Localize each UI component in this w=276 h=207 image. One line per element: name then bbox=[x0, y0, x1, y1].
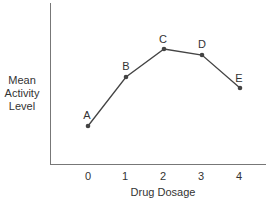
point-labels: A B C D E bbox=[83, 33, 242, 121]
point-c bbox=[162, 47, 167, 52]
x-tick-0: 0 bbox=[85, 170, 91, 182]
y-axis-label: Mean Activity Level bbox=[5, 74, 40, 112]
x-tick-1: 1 bbox=[122, 170, 128, 182]
point-a bbox=[86, 124, 91, 129]
data-points bbox=[86, 47, 243, 129]
svg-text:Mean: Mean bbox=[8, 74, 36, 86]
point-label-d: D bbox=[198, 38, 206, 50]
point-label-e: E bbox=[235, 72, 242, 84]
point-label-b: B bbox=[122, 60, 129, 72]
svg-text:Level: Level bbox=[9, 100, 35, 112]
svg-text:Activity: Activity bbox=[5, 87, 40, 99]
point-label-a: A bbox=[83, 109, 91, 121]
x-tick-3: 3 bbox=[198, 170, 204, 182]
point-e bbox=[238, 86, 243, 91]
x-axis-label: Drug Dosage bbox=[131, 186, 196, 198]
point-d bbox=[200, 53, 205, 58]
point-b bbox=[124, 75, 129, 80]
x-tick-4: 4 bbox=[236, 170, 242, 182]
point-label-c: C bbox=[159, 33, 167, 45]
chart: Mean Activity Level 0 1 2 3 4 Drug Dosag… bbox=[0, 0, 276, 207]
x-tick-2: 2 bbox=[160, 170, 166, 182]
x-tick-labels: 0 1 2 3 4 bbox=[85, 170, 242, 182]
data-line bbox=[88, 49, 240, 126]
